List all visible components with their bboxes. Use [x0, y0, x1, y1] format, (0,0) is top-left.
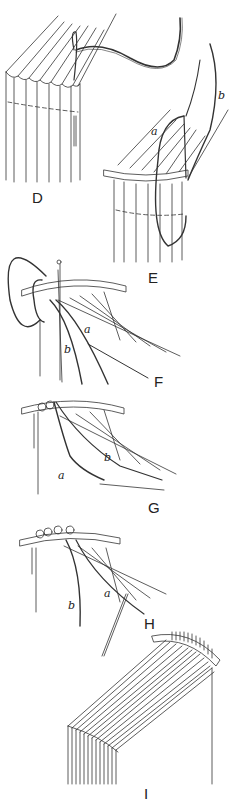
thread-label-f-b: b [64, 344, 71, 355]
panel-label-d: D [32, 190, 43, 205]
panel-label-i: I [144, 786, 148, 801]
panel-label-g: G [148, 500, 160, 515]
panel-label-e: E [148, 270, 158, 285]
panel-e-drawing [104, 44, 228, 262]
panel-d-drawing [6, 14, 182, 182]
thread-label-e-b: b [218, 90, 225, 101]
thread-label-h-b: b [68, 600, 75, 611]
panel-g-drawing [22, 401, 176, 494]
panel-h-drawing [20, 526, 166, 656]
thread-label-g-b: b [104, 452, 111, 463]
panel-label-f: F [154, 374, 163, 389]
panel-label-h: H [144, 616, 155, 631]
thread-label-e-a: a [151, 126, 158, 137]
thread-label-f-a: a [84, 324, 91, 335]
endband-illustration [0, 0, 234, 802]
thread-label-g-a: a [58, 470, 65, 481]
panel-i-drawing [68, 632, 220, 784]
thread-label-h-a: a [104, 588, 111, 599]
